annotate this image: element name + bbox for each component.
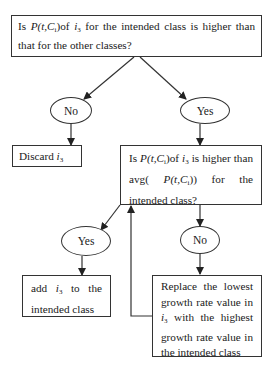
edge-decision2-yes [101,205,120,230]
variable: i3 [57,150,64,162]
no-ellipse-1: No [50,97,92,124]
discard-box: Discard i3 [12,145,82,167]
no-ellipse-2: No [180,226,220,254]
formula: P(t,Ci) [140,152,170,164]
text: Is [18,20,31,32]
text: with the highest growth rate value in th… [161,311,253,358]
text: Is [129,152,140,164]
text: of [170,152,182,164]
formula-avg: P(t,Ci)) [164,173,197,185]
decision-box-2: Is P(t,Ci)of i3 is higher than avg( P(t,… [120,145,262,205]
label: No [193,234,207,246]
variable: i3 [161,311,168,323]
text: Replace the lowest growth rate value in [161,280,253,308]
variable: i3 [74,20,81,32]
formula: P(t,Ci) [31,20,61,32]
label: Yes [78,235,95,247]
label: No [64,105,78,117]
yes-ellipse-1: Yes [180,97,230,124]
replace-box: Replace the lowest growth rate value in … [152,275,262,357]
edge-decision1-yes [140,57,186,99]
edge-decision1-no [84,57,134,99]
text: of [60,20,74,32]
label: Yes [197,105,214,117]
decision-box-1: Is P(t,Ci)of i3 for the intended class i… [11,15,262,57]
text: add [31,282,56,294]
add-box: add i3 to the intended class [22,275,111,317]
yes-ellipse-2: Yes [61,226,111,256]
text: Discard [19,150,57,162]
edge-replace-loop [131,206,152,316]
variable: i3 [182,152,189,164]
